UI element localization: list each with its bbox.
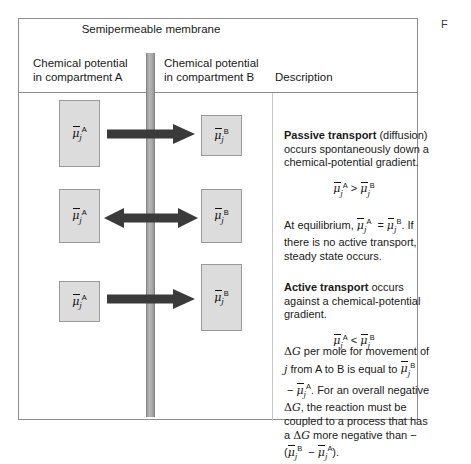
- double-arrow-icon-row2: [104, 207, 198, 229]
- description-row1: Passive transport (diffusion) occurs spo…: [284, 129, 430, 200]
- semipermeable-membrane-bar: [146, 53, 155, 417]
- description-row2: At equilibrium, μjA =μjB. If there is no…: [284, 215, 430, 264]
- description-row3-term: Active transport: [284, 281, 368, 293]
- catchword-letter: F: [441, 18, 448, 30]
- semipermeable-membrane-label: Semipermeable membrane: [81, 23, 221, 37]
- description-row1-term: Passive transport: [284, 129, 376, 141]
- potential-box-a-row3: μjA: [59, 281, 100, 322]
- column-header-compartment-a: Chemical potential in compartment A: [33, 57, 148, 84]
- equation-row1: μjA>μjB: [284, 179, 430, 200]
- right-arrow-icon-row1: [107, 123, 195, 145]
- potential-box-a-row2: μjA: [59, 189, 100, 243]
- right-arrow-icon-row3: [107, 288, 195, 310]
- potential-box-b-row2: μjB: [201, 189, 242, 243]
- potential-box-a-row1: μjA: [59, 100, 100, 167]
- column-header-description: Description: [275, 71, 405, 85]
- potential-box-b-row3: μjB: [201, 264, 242, 331]
- description-column-divider: [272, 93, 273, 421]
- free-energy-note: ΔG per mole for movement of j from A to …: [284, 345, 430, 464]
- column-header-compartment-b: Chemical potential in compartment B: [164, 57, 279, 84]
- potential-box-b-row1: μjB: [201, 115, 242, 156]
- figure-frame: Chemical potential in compartment A Chem…: [18, 18, 418, 420]
- description-row3: Active transport occurs against a chemic…: [284, 281, 430, 352]
